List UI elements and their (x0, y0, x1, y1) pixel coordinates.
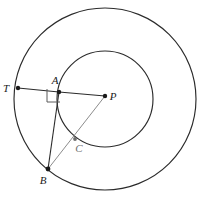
point-C-dot (73, 137, 77, 141)
point-B-dot (46, 167, 51, 172)
point-label-T: T (3, 82, 10, 94)
point-T-dot (16, 86, 20, 90)
outer-circle (14, 8, 196, 190)
point-label-P: P (109, 90, 117, 102)
geometry-canvas: T A P B C (0, 0, 199, 203)
geometry-figure: T A P B C (0, 0, 199, 203)
inner-circle (57, 51, 153, 147)
point-label-C: C (75, 142, 83, 154)
point-label-B: B (40, 174, 47, 186)
point-A-dot (57, 90, 61, 94)
point-P-dot (103, 94, 107, 98)
segment-radius-AP (59, 92, 105, 96)
segment-tangent-TA (18, 88, 59, 92)
point-label-A: A (51, 74, 59, 86)
